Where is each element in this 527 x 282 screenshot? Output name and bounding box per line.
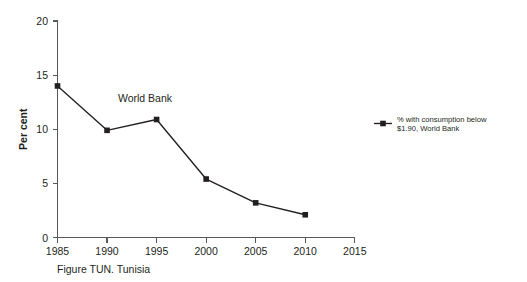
x-tick-label-2015: 2015: [343, 245, 367, 257]
y-tick-label-5: 5: [42, 177, 48, 189]
x-axis-tick-labels: 1985 1990 1995 2000 2005 2010 2015: [46, 245, 367, 257]
x-tick-label-2000: 2000: [194, 245, 218, 257]
series-markers: [55, 83, 308, 217]
data-point-2000: [203, 176, 209, 182]
y-tick-label-0: 0: [42, 232, 48, 244]
y-tick-label-10: 10: [36, 123, 48, 135]
data-point-1990: [104, 128, 110, 134]
y-tick-label-20: 20: [36, 15, 48, 27]
legend: % with consumption below $1.90, World Ba…: [374, 115, 487, 134]
y-axis-ticks: [53, 21, 58, 238]
legend-label-line-1: % with consumption below: [397, 115, 487, 124]
legend-label-line-2: $1.90, World Bank: [397, 124, 460, 133]
figure-caption: Figure TUN. Tunisia: [57, 263, 150, 275]
data-point-2005: [253, 200, 259, 206]
series-line-world-bank: [58, 86, 306, 215]
x-tick-label-1985: 1985: [46, 245, 70, 257]
x-tick-label-1990: 1990: [95, 245, 119, 257]
x-tick-label-2005: 2005: [244, 245, 268, 257]
y-tick-label-15: 15: [36, 69, 48, 81]
x-tick-label-2010: 2010: [294, 245, 318, 257]
figure-container: 20 15 10 5 0 1985 1990 1995 2000 2005 20…: [0, 0, 527, 282]
chart-canvas: 20 15 10 5 0 1985 1990 1995 2000 2005 20…: [0, 0, 527, 282]
annotation-world-bank: World Bank: [118, 92, 173, 104]
data-point-1985: [55, 83, 61, 89]
x-tick-label-1995: 1995: [145, 245, 169, 257]
x-axis-ticks: [58, 238, 355, 243]
y-axis-tick-labels: 20 15 10 5 0: [36, 15, 48, 244]
data-point-2010: [302, 212, 308, 218]
data-point-1995: [154, 117, 160, 123]
legend-marker-icon: [380, 121, 386, 127]
y-axis-title: Per cent: [17, 108, 29, 150]
